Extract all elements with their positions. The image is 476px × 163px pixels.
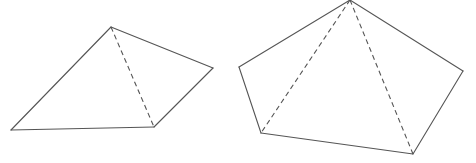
solid-edge	[154, 68, 213, 127]
diagram-canvas	[0, 0, 476, 163]
solid-edge	[413, 71, 463, 154]
solid-edge	[239, 0, 350, 67]
solid-edge	[261, 133, 413, 154]
solid-edge	[239, 67, 261, 133]
dashed-edge	[261, 0, 350, 133]
solid-edge	[350, 0, 463, 71]
solid-edge	[11, 27, 111, 130]
dashed-edge	[350, 0, 413, 154]
solid-edge	[11, 127, 154, 130]
pentagon-right	[239, 0, 463, 154]
quadrilateral-pyramid-left	[11, 27, 213, 130]
figures-group	[11, 0, 463, 154]
